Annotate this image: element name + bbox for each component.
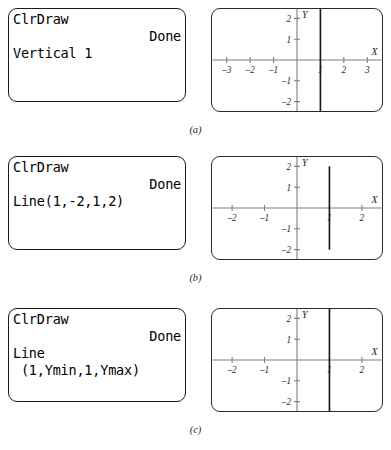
- x-tick-label: –3: [221, 65, 232, 75]
- calculator-text: ClrDrawDoneLine (1,Ymin,1,Ymax): [13, 311, 181, 379]
- graph-screen-a[interactable]: –3–2–112321–1–2XY: [211, 8, 383, 112]
- calculator-line: Line: [13, 345, 181, 362]
- graph-screen-b[interactable]: –2–11221–1–2XY: [211, 156, 383, 260]
- calculator-line: ClrDraw: [13, 159, 181, 176]
- x-tick-label: 2: [342, 65, 347, 75]
- figure-panel-b: ClrDrawDoneLine(1,-2,1,2) –2–11221–1–2XY…: [0, 148, 391, 278]
- subfigure-caption-c: (c): [0, 424, 391, 435]
- calculator-text: ClrDrawDoneVertical 1: [13, 11, 181, 62]
- x-tick-label: 2: [360, 365, 365, 375]
- graph-plot-a: –3–2–112321–1–2XY: [212, 9, 382, 111]
- figure-panel-c: ClrDrawDoneLine (1,Ymin,1,Ymax) –2–11221…: [0, 300, 391, 430]
- y-tick-label: 1: [286, 335, 291, 345]
- graph-screen-c[interactable]: –2–11221–1–2XY: [211, 308, 383, 412]
- figure-panel-a: ClrDrawDoneVertical 1 –3–2–112321–1–2XY …: [0, 0, 391, 130]
- x-tick-label: –1: [268, 65, 278, 75]
- calculator-line: Done: [13, 328, 181, 345]
- x-axis-label: X: [370, 46, 378, 57]
- calculator-line: (1,Ymin,1,Ymax): [13, 362, 181, 379]
- y-tick-label: –2: [281, 245, 292, 255]
- y-tick-label: 2: [286, 314, 291, 324]
- y-axis-label: Y: [302, 9, 309, 20]
- graph-plot-b: –2–11221–1–2XY: [212, 157, 382, 259]
- y-axis-label: Y: [302, 157, 309, 168]
- y-axis-label: Y: [302, 309, 309, 320]
- y-tick-label: –1: [281, 376, 291, 386]
- y-tick-label: –1: [281, 224, 291, 234]
- y-tick-label: –2: [281, 97, 292, 107]
- y-tick-label: 2: [286, 162, 291, 172]
- x-tick-label: –2: [244, 65, 255, 75]
- calculator-screen-b[interactable]: ClrDrawDoneLine(1,-2,1,2): [8, 156, 186, 250]
- x-tick-label: –2: [226, 213, 237, 223]
- y-tick-label: 1: [286, 35, 291, 45]
- x-tick-label: 2: [360, 213, 365, 223]
- subfigure-caption-b: (b): [0, 272, 391, 283]
- calculator-line: Done: [13, 176, 181, 193]
- calculator-line: Line(1,-2,1,2): [13, 193, 181, 210]
- x-tick-label: –1: [259, 365, 269, 375]
- calculator-line: ClrDraw: [13, 11, 181, 28]
- calculator-line: Done: [13, 28, 181, 45]
- x-axis-label: X: [370, 194, 378, 205]
- x-tick-label: –2: [226, 365, 237, 375]
- x-tick-label: 3: [364, 65, 370, 75]
- calculator-line: ClrDraw: [13, 311, 181, 328]
- x-tick-label: –1: [259, 213, 269, 223]
- calculator-screen-a[interactable]: ClrDrawDoneVertical 1: [8, 8, 186, 102]
- y-tick-label: –1: [281, 76, 291, 86]
- y-tick-label: 2: [286, 14, 291, 24]
- calculator-line: Vertical 1: [13, 45, 181, 62]
- x-axis-label: X: [370, 346, 378, 357]
- y-tick-label: –2: [281, 397, 292, 407]
- graph-plot-c: –2–11221–1–2XY: [212, 309, 382, 411]
- calculator-text: ClrDrawDoneLine(1,-2,1,2): [13, 159, 181, 210]
- subfigure-caption-a: (a): [0, 124, 391, 135]
- y-tick-label: 1: [286, 183, 291, 193]
- calculator-screen-c[interactable]: ClrDrawDoneLine (1,Ymin,1,Ymax): [8, 308, 186, 402]
